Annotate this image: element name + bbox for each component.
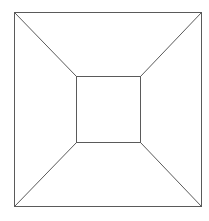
diagonal-top-left	[15, 13, 77, 77]
inner-square	[77, 77, 141, 143]
pyramid-diagram	[0, 0, 209, 221]
diagonal-top-right	[141, 13, 202, 77]
diagonal-bottom-right	[141, 143, 202, 207]
diagonal-bottom-left	[15, 143, 77, 207]
